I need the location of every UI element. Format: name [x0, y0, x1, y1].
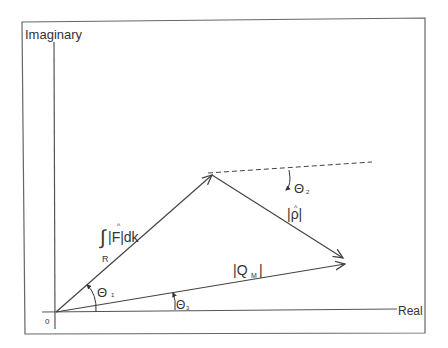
imaginary-axis-label: Imaginary [25, 27, 83, 42]
svg-text:∫: ∫ [99, 226, 107, 249]
vector-rho [212, 175, 343, 258]
svg-text:2: 2 [306, 189, 310, 195]
theta1-label: Θ 1 [97, 285, 115, 300]
svg-text:Θ: Θ [294, 181, 304, 196]
svg-text:R: R [102, 254, 109, 264]
theta2-arc [286, 170, 290, 190]
theta3-arc [173, 293, 175, 310]
svg-text:|Q: |Q [233, 262, 248, 278]
dashed-reference-line [208, 162, 372, 173]
svg-text:|: | [259, 262, 263, 278]
svg-text:Θ: Θ [176, 298, 185, 312]
theta1-arc [87, 285, 96, 312]
frame [22, 18, 425, 334]
svg-text:|F|dk: |F|dk [108, 229, 140, 245]
phasor-diagram: Imaginary Real 0 Θ 1 Θ 2 Θ 3 ∫ R ^ |F|dk… [0, 0, 448, 348]
rho-label: ^ |ρ| [287, 204, 302, 222]
theta3-label: Θ 3 [176, 298, 190, 312]
svg-text:Θ: Θ [97, 285, 107, 300]
svg-text:^: ^ [117, 222, 121, 229]
svg-text:3: 3 [186, 305, 190, 311]
svg-text:M: M [251, 272, 257, 279]
integral-F-label: ∫ R ^ |F|dk [99, 222, 140, 264]
real-axis [42, 309, 397, 312]
svg-text:|ρ|: |ρ| [287, 206, 302, 222]
origin-label: 0 [45, 317, 50, 326]
theta2-label: Θ 2 [294, 181, 310, 196]
svg-text:1: 1 [111, 292, 115, 298]
Q-M-label: |Q M | [233, 262, 263, 279]
real-axis-label: Real [398, 304, 423, 318]
imaginary-axis [54, 42, 55, 329]
